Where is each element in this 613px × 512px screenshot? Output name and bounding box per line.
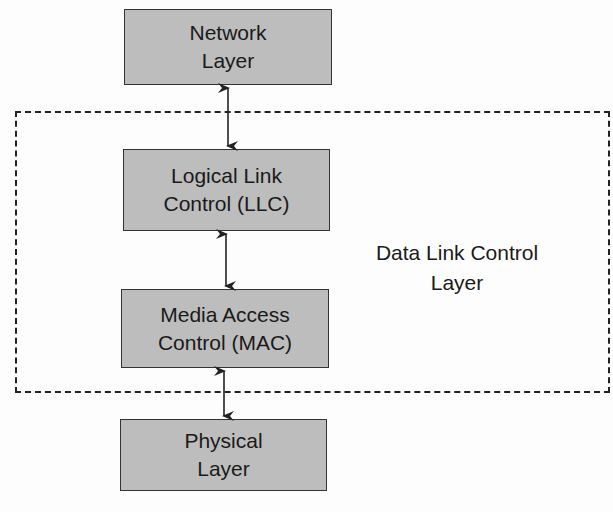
diagram-canvas: Network Layer Logical Link Control (LLC)… xyxy=(0,0,613,512)
bidirectional-arrows-icon xyxy=(0,0,613,512)
